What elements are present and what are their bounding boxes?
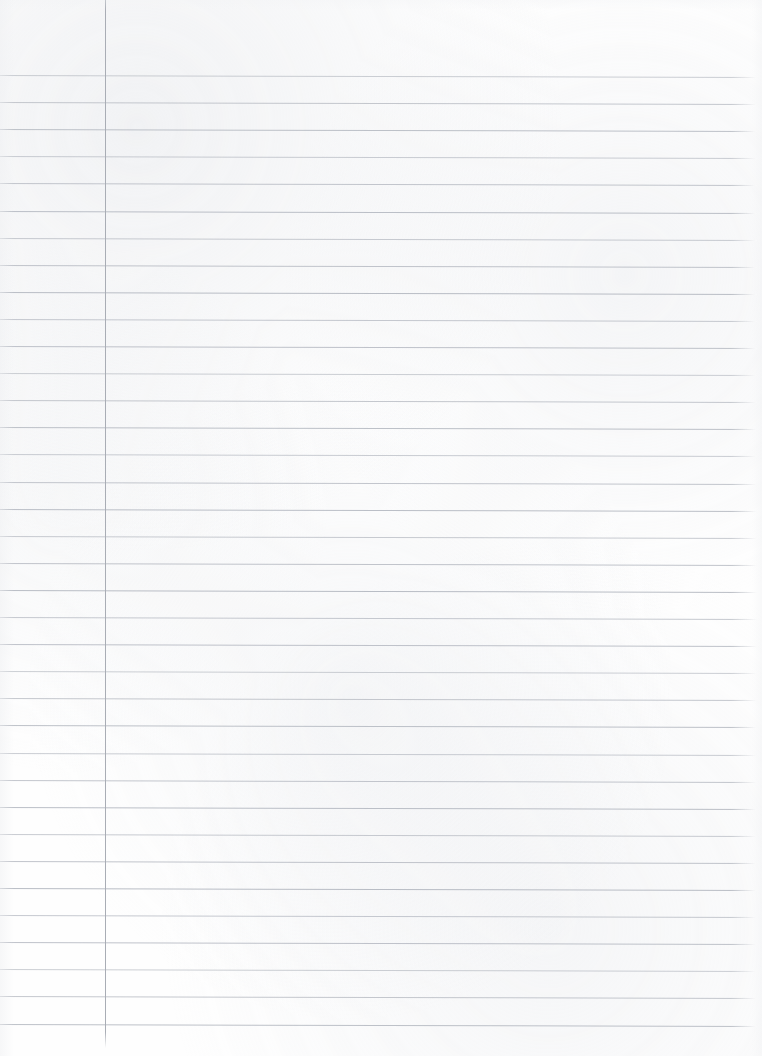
rule-line — [0, 780, 757, 783]
rule-line — [0, 888, 757, 891]
rule-line — [0, 265, 757, 268]
rule-line — [0, 915, 757, 918]
rule-line — [0, 1024, 757, 1027]
scan-vignette — [0, 0, 762, 1056]
rule-line — [0, 834, 757, 837]
rule-line — [0, 509, 757, 512]
rule-line — [0, 671, 757, 674]
rule-line — [0, 969, 757, 972]
rule-line — [0, 156, 757, 159]
rule-line — [0, 129, 757, 132]
rule-line — [0, 102, 757, 105]
rule-line — [0, 753, 757, 756]
rule-line — [0, 536, 757, 539]
rule-line — [0, 75, 757, 78]
rule-line — [0, 427, 757, 430]
rule-line — [0, 644, 757, 647]
rule-line — [0, 698, 757, 701]
rule-line — [0, 454, 757, 457]
paper-texture — [0, 0, 762, 1056]
rule-line — [0, 617, 757, 620]
rule-line — [0, 292, 757, 295]
rule-line — [0, 346, 757, 349]
rule-line — [0, 942, 757, 945]
rule-line — [0, 183, 757, 186]
rule-line — [0, 725, 757, 728]
rule-line — [0, 482, 757, 485]
rule-line — [0, 373, 757, 376]
rule-line — [0, 807, 757, 810]
vertical-margin-line — [105, 0, 106, 1048]
rule-line — [0, 996, 757, 999]
rule-line — [0, 590, 757, 593]
rule-line — [0, 400, 757, 403]
rule-line — [0, 861, 757, 864]
rule-line — [0, 563, 757, 566]
rule-line — [0, 211, 757, 214]
horizontal-rule-lines — [0, 0, 762, 1056]
rule-line — [0, 319, 757, 322]
notebook-page — [0, 0, 762, 1056]
rule-line — [0, 238, 757, 241]
